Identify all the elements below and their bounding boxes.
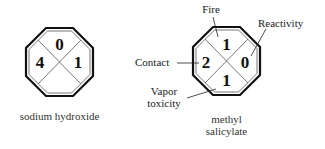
callout-vapor-toxicity-line1: Vapor [151,85,178,97]
octagon-sodium-hydroxide: 0 4 1 [26,28,93,96]
caption-methyl-salicylate-line1: methyl [211,113,242,125]
contact-rating: 4 [36,53,45,72]
octagon-methyl-salicylate: 1 2 0 1 [193,27,260,95]
vapor-toxicity-rating: 1 [222,71,231,90]
caption-methyl-salicylate-line2: salicylate [206,125,248,137]
caption-sodium-hydroxide: sodium hydroxide [20,110,100,122]
hazard-diagrams: 0 4 1 sodium hydroxide 1 2 0 1 Fire Reac… [0,0,325,149]
callout-reactivity: Reactivity [258,17,304,29]
callout-contact: Contact [135,56,169,68]
contact-rating: 2 [202,53,211,72]
fire-rating: 1 [222,35,231,54]
fire-rating: 0 [55,35,64,54]
leader-line-reactivity [251,29,266,56]
callout-fire: Fire [202,3,220,15]
reactivity-rating: 1 [74,53,83,72]
callout-vapor-toxicity-line2: toxicity [147,97,181,109]
reactivity-rating: 0 [241,53,250,72]
